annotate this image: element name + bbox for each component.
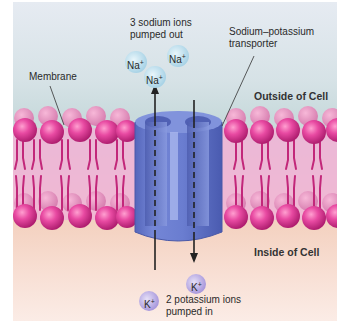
sodium-ion-3: Na+ bbox=[146, 72, 163, 87]
potassium-ion-1: K+ bbox=[191, 279, 202, 294]
sodium-ion-1: Na+ bbox=[127, 57, 144, 72]
potassium-in-label-line1: 2 potassium ions bbox=[166, 294, 241, 306]
membrane-label: Membrane bbox=[29, 71, 77, 83]
potassium-in-label: 2 potassium ions pumped in bbox=[166, 294, 241, 318]
sodium-ion-2: Na+ bbox=[169, 51, 186, 66]
potassium-ion-2: K+ bbox=[144, 296, 155, 311]
inside-of-cell-label: Inside of Cell bbox=[254, 246, 319, 258]
sodium-potassium-transporter bbox=[135, 111, 222, 241]
potassium-in-label-line2: pumped in bbox=[166, 306, 241, 318]
outside-of-cell-label: Outside of Cell bbox=[254, 90, 328, 102]
transporter-label-line2: transporter bbox=[229, 38, 314, 50]
sodium-out-label-line2: pumped out bbox=[130, 29, 192, 41]
transporter-label: Sodium–potassium transporter bbox=[229, 26, 314, 50]
transporter-label-line1: Sodium–potassium bbox=[229, 26, 314, 38]
sodium-out-label-line1: 3 sodium ions bbox=[130, 17, 192, 29]
sodium-out-label: 3 sodium ions pumped out bbox=[130, 17, 192, 41]
